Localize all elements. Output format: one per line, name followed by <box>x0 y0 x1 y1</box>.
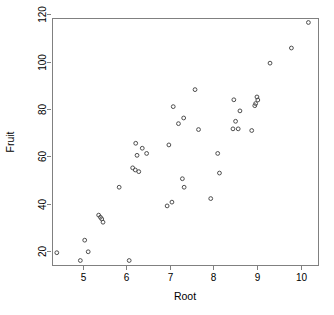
data-point <box>216 152 220 156</box>
data-point <box>268 61 272 65</box>
y-tick-label: 100 <box>37 54 48 71</box>
data-point <box>218 171 222 175</box>
data-point <box>238 109 242 113</box>
x-tick-label: 8 <box>211 272 217 283</box>
x-axis-ticks: 5678910 <box>81 266 308 283</box>
data-point <box>135 153 139 157</box>
data-point <box>145 152 149 156</box>
y-tick-label: 40 <box>37 199 48 211</box>
x-tick-label: 5 <box>81 272 87 283</box>
data-point <box>250 129 254 133</box>
x-tick-label: 9 <box>255 272 261 283</box>
data-point <box>231 127 235 131</box>
data-point <box>307 21 311 25</box>
data-point <box>177 122 181 126</box>
data-point <box>290 46 294 50</box>
data-point <box>137 170 141 174</box>
y-tick-label: 20 <box>37 246 48 258</box>
plot-frame <box>53 19 319 266</box>
plot-canvas: 5678910 20406080100120 Root Fruit <box>0 0 334 315</box>
data-point <box>78 259 82 263</box>
y-axis-title: Fruit <box>4 131 16 152</box>
data-point <box>171 105 175 109</box>
data-point <box>86 250 90 254</box>
data-point <box>167 143 171 147</box>
data-point <box>236 127 240 131</box>
x-tick-label: 10 <box>296 272 308 283</box>
data-point <box>127 259 131 263</box>
plot-border <box>53 19 319 266</box>
data-point <box>180 177 184 181</box>
data-point <box>170 200 174 204</box>
data-point <box>197 128 201 132</box>
data-point <box>209 197 213 201</box>
data-point <box>193 88 197 92</box>
y-tick-label: 120 <box>37 6 48 23</box>
data-point <box>134 141 138 145</box>
data-point <box>140 146 144 150</box>
data-point <box>83 238 87 242</box>
scatter-plot-figure: 5678910 20406080100120 Root Fruit <box>0 0 334 315</box>
data-point <box>55 251 59 255</box>
data-point <box>117 185 121 189</box>
data-point <box>182 116 186 120</box>
y-tick-label: 80 <box>37 104 48 116</box>
data-point <box>234 119 238 123</box>
data-points <box>55 21 310 263</box>
x-axis-title: Root <box>174 290 196 302</box>
x-tick-label: 7 <box>168 272 174 283</box>
data-point <box>182 185 186 189</box>
y-tick-label: 60 <box>37 151 48 163</box>
x-tick-label: 6 <box>124 272 130 283</box>
y-axis-ticks: 20406080100120 <box>37 6 52 257</box>
data-point <box>165 204 169 208</box>
data-point <box>232 98 236 102</box>
